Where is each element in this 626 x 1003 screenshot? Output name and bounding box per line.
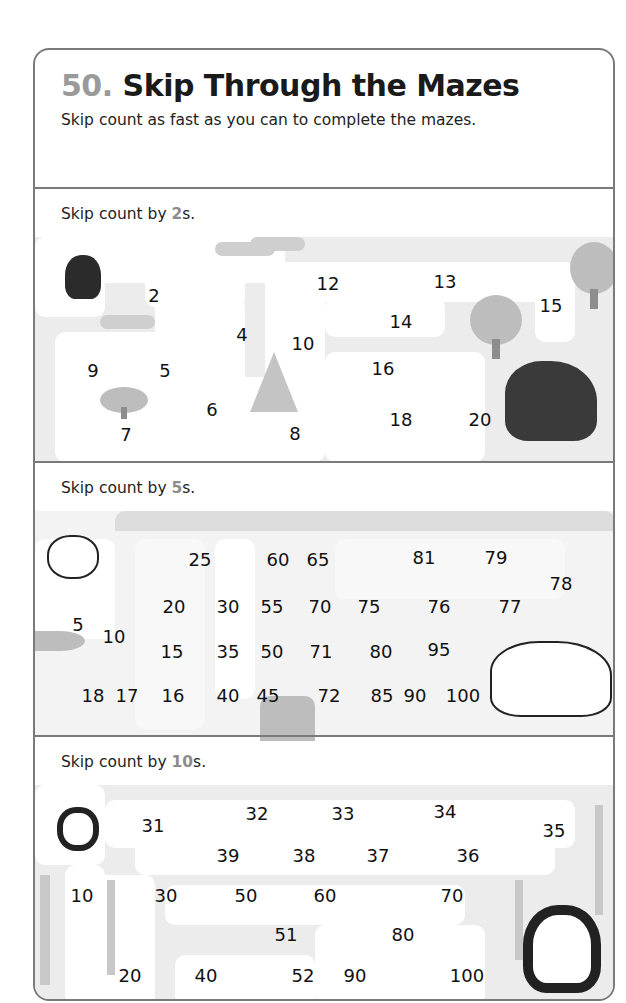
maze-number: 20 bbox=[119, 965, 142, 986]
finish-panda-icon bbox=[523, 905, 601, 993]
prompt-prefix: Skip count by bbox=[61, 205, 171, 223]
prompt-value: 10 bbox=[171, 753, 193, 771]
maze-number: 39 bbox=[217, 845, 240, 866]
tent-icon bbox=[250, 352, 298, 412]
palm-tree-icon bbox=[40, 875, 50, 985]
maze-number: 15 bbox=[540, 295, 563, 316]
maze-number: 25 bbox=[189, 549, 212, 570]
maze-number: 4 bbox=[236, 324, 247, 345]
maze-number: 60 bbox=[314, 885, 337, 906]
maze-number: 14 bbox=[390, 311, 413, 332]
maze-number: 71 bbox=[310, 641, 333, 662]
cloud-icon bbox=[100, 315, 155, 329]
maze-number: 40 bbox=[195, 965, 218, 986]
maze-number: 17 bbox=[116, 685, 139, 706]
maze-number: 15 bbox=[161, 641, 184, 662]
cloud-icon bbox=[250, 237, 305, 251]
maze-prompt: Skip count by 10s. bbox=[61, 753, 206, 771]
maze-number: 80 bbox=[370, 641, 393, 662]
maze-number: 76 bbox=[428, 596, 451, 617]
maze-number: 70 bbox=[309, 596, 332, 617]
maze-number: 18 bbox=[390, 409, 413, 430]
tree-icon bbox=[570, 242, 615, 294]
start-panda-icon bbox=[57, 807, 99, 851]
maze-number: 30 bbox=[155, 885, 178, 906]
maze-number: 78 bbox=[550, 573, 573, 594]
page-title: 50. Skip Through the Mazes bbox=[61, 68, 519, 103]
maze-number: 20 bbox=[469, 409, 492, 430]
tree-icon bbox=[470, 295, 522, 345]
maze-number: 8 bbox=[289, 423, 300, 444]
maze-number: 55 bbox=[261, 596, 284, 617]
maze-number: 40 bbox=[217, 685, 240, 706]
maze-number: 33 bbox=[332, 803, 355, 824]
prompt-suffix: s. bbox=[182, 205, 195, 223]
maze-section-10s: Skip count by 10s. 31 32 33 34 35 39 38 … bbox=[35, 735, 613, 1001]
maze-number: 50 bbox=[261, 641, 284, 662]
maze-2s: 2 12 13 15 14 4 10 9 5 16 6 7 8 18 20 bbox=[35, 237, 613, 461]
prompt-prefix: Skip count by bbox=[61, 479, 171, 497]
maze-number: 85 bbox=[371, 685, 394, 706]
maze-number: 16 bbox=[372, 358, 395, 379]
activity-number: 50. bbox=[61, 68, 113, 103]
maze-number: 20 bbox=[163, 596, 186, 617]
worksheet-card: 50. Skip Through the Mazes Skip count as… bbox=[33, 48, 615, 1001]
maze-number: 37 bbox=[367, 845, 390, 866]
maze-path bbox=[325, 352, 485, 462]
maze-number: 79 bbox=[485, 547, 508, 568]
title-text: Skip Through the Mazes bbox=[123, 68, 520, 103]
maze-section-2s: Skip count by 2s. 2 bbox=[35, 187, 613, 461]
maze-number: 18 bbox=[82, 685, 105, 706]
palm-tree-icon bbox=[595, 805, 603, 915]
maze-path bbox=[215, 539, 255, 699]
maze-number: 16 bbox=[162, 685, 185, 706]
prompt-suffix: s. bbox=[193, 753, 206, 771]
maze-number: 70 bbox=[441, 885, 464, 906]
maze-number: 80 bbox=[392, 924, 415, 945]
maze-prompt: Skip count by 5s. bbox=[61, 479, 195, 497]
prompt-value: 2 bbox=[171, 205, 182, 223]
maze-number: 50 bbox=[235, 885, 258, 906]
maze-number: 45 bbox=[257, 685, 280, 706]
maze-prompt: Skip count by 2s. bbox=[61, 205, 195, 223]
palm-tree-icon bbox=[107, 880, 115, 975]
maze-number: 90 bbox=[344, 965, 367, 986]
maze-10s: 31 32 33 34 35 39 38 37 36 10 30 50 60 7… bbox=[35, 785, 613, 1001]
mountains-icon bbox=[115, 511, 615, 531]
maze-number: 31 bbox=[142, 815, 165, 836]
maze-number: 6 bbox=[206, 399, 217, 420]
maze-section-5s: Skip count by 5s. 25 60 65 81 79 78 20 3… bbox=[35, 461, 613, 735]
maze-path bbox=[335, 539, 565, 599]
maze-number: 38 bbox=[293, 845, 316, 866]
maze-path bbox=[325, 297, 445, 337]
maze-number: 36 bbox=[457, 845, 480, 866]
maze-number: 75 bbox=[358, 596, 381, 617]
finish-bear-icon bbox=[505, 361, 597, 441]
maze-number: 9 bbox=[87, 360, 98, 381]
maze-number: 90 bbox=[404, 685, 427, 706]
maze-number: 65 bbox=[307, 549, 330, 570]
tree-trunk bbox=[121, 407, 127, 419]
maze-number: 10 bbox=[292, 333, 315, 354]
start-polar-bear-icon bbox=[47, 535, 99, 579]
maze-number: 100 bbox=[446, 685, 480, 706]
maze-number: 2 bbox=[148, 285, 159, 306]
maze-number: 81 bbox=[413, 547, 436, 568]
maze-number: 52 bbox=[292, 965, 315, 986]
maze-number: 34 bbox=[434, 801, 457, 822]
instructions: Skip count as fast as you can to complet… bbox=[61, 111, 476, 129]
maze-number: 13 bbox=[434, 271, 457, 292]
maze-number: 95 bbox=[428, 639, 451, 660]
prompt-value: 5 bbox=[171, 479, 182, 497]
start-bear-icon bbox=[65, 255, 101, 299]
finish-polar-bear-icon bbox=[490, 641, 612, 717]
maze-number: 10 bbox=[71, 885, 94, 906]
maze-number: 7 bbox=[120, 424, 131, 445]
maze-number: 72 bbox=[318, 685, 341, 706]
maze-number: 35 bbox=[543, 820, 566, 841]
palm-tree-icon bbox=[515, 880, 523, 960]
maze-number: 32 bbox=[246, 803, 269, 824]
maze-number: 60 bbox=[267, 549, 290, 570]
maze-number: 5 bbox=[159, 360, 170, 381]
maze-number: 100 bbox=[450, 965, 484, 986]
